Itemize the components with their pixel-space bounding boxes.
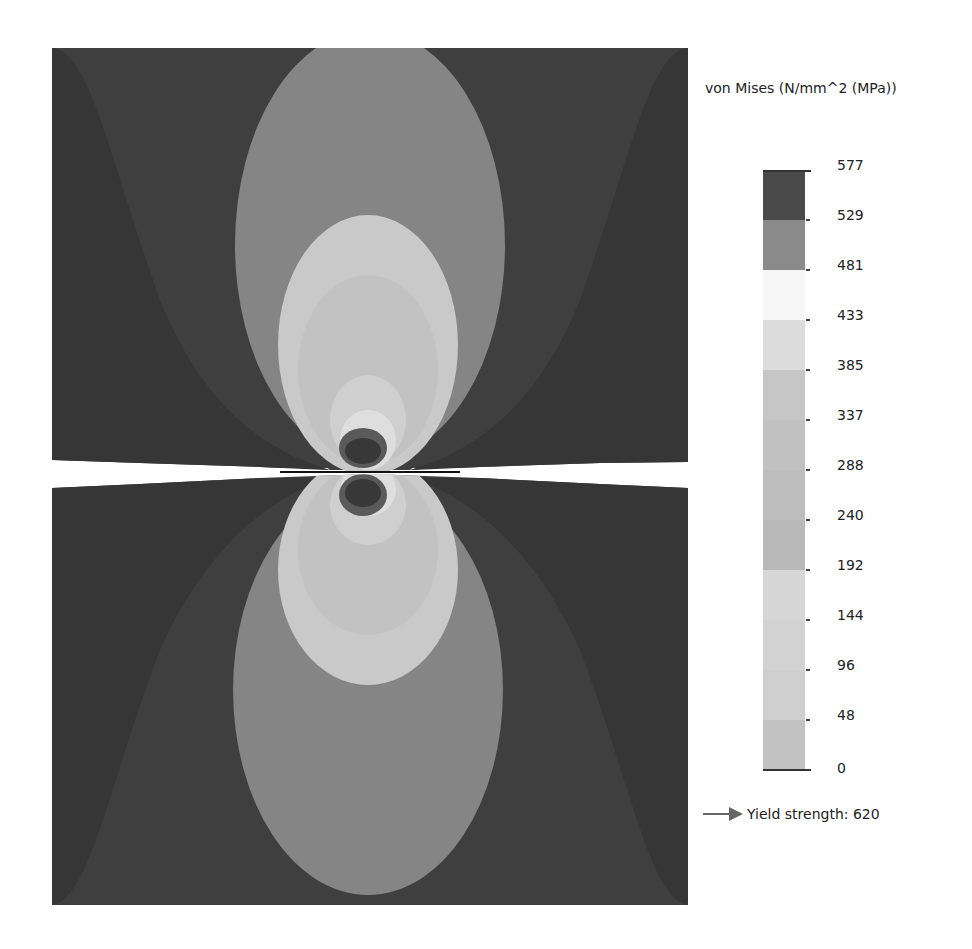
arrow-right-icon <box>703 806 743 822</box>
tick-label: 96 <box>837 657 855 673</box>
colorbar-band <box>763 470 805 520</box>
colorbar-band <box>763 270 805 320</box>
colorbar-band <box>763 720 805 770</box>
tick-mark <box>806 219 810 221</box>
colorbar-bottom-cap <box>763 769 811 771</box>
colorbar-top-cap <box>763 170 811 172</box>
tick-label: 0 <box>837 760 846 776</box>
tick-mark <box>806 719 810 721</box>
legend-title: von Mises (N/mm^2 (MPa)) <box>705 80 897 96</box>
lower-body <box>52 455 688 910</box>
tick-label: 288 <box>837 457 864 473</box>
colorbar-band <box>763 620 805 670</box>
colorbar-band <box>763 520 805 570</box>
colorbar-band <box>763 370 805 420</box>
yield-strength-indicator: Yield strength: 620 <box>703 806 880 822</box>
tick-mark <box>806 319 810 321</box>
yield-strength-label: Yield strength: 620 <box>747 806 880 822</box>
upper-body <box>52 30 688 475</box>
colorbar-band <box>763 570 805 620</box>
tick-mark <box>806 269 810 271</box>
colorbar: 577 529 481 433 385 337 288 240 192 144 … <box>763 170 805 770</box>
tick-mark <box>806 369 810 371</box>
tick-label: 577 <box>837 157 864 173</box>
colorbar-band <box>763 170 805 220</box>
colorbar-band <box>763 220 805 270</box>
tick-label: 529 <box>837 207 864 223</box>
tick-mark <box>806 419 810 421</box>
tick-label: 433 <box>837 307 864 323</box>
tick-mark <box>806 519 810 521</box>
tick-label: 144 <box>837 607 864 623</box>
colorbar-band <box>763 420 805 470</box>
tick-label: 48 <box>837 707 855 723</box>
tick-mark <box>806 619 810 621</box>
colorbar-band <box>763 320 805 370</box>
tick-mark <box>806 669 810 671</box>
stress-contour-plot <box>0 0 700 949</box>
tick-label: 337 <box>837 407 864 423</box>
tick-label: 385 <box>837 357 864 373</box>
tick-mark <box>806 569 810 571</box>
tick-label: 240 <box>837 507 864 523</box>
tick-label: 192 <box>837 557 864 573</box>
colorbar-band <box>763 670 805 720</box>
tick-mark <box>806 469 810 471</box>
tick-label: 481 <box>837 257 864 273</box>
